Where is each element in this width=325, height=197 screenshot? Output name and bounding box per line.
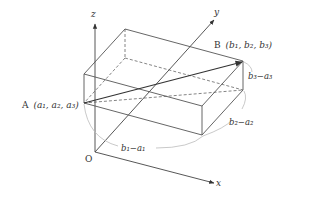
dimension-dx-label: b₁−a₁ (121, 143, 145, 153)
x-axis (95, 152, 214, 183)
x-axis-label: x (216, 178, 221, 188)
z-axis-label: z (90, 9, 96, 19)
dimension-dz-label: b₃−a₃ (248, 71, 273, 81)
axes (95, 20, 214, 183)
origin-label: O (85, 154, 92, 164)
vector-ab (84, 62, 242, 103)
coordinate-box-diagram: z y x O A (a₁, a₂, a₃) B (b₁, b₂, b₃) b₁… (0, 0, 325, 197)
point-a-label: A (a₁, a₂, a₃) (21, 100, 79, 110)
dimension-arcs (84, 62, 252, 148)
y-axis (95, 20, 214, 152)
y-axis-label: y (213, 7, 220, 17)
point-b-label: B (b₁, b₂, b₃) (214, 40, 273, 50)
dimension-dy-label: b₂−a₂ (229, 117, 254, 127)
